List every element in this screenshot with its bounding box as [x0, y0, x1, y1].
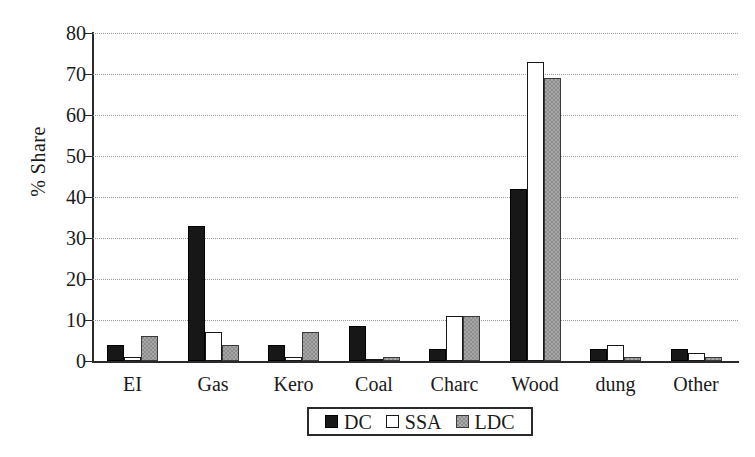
- bar-ldc-other: [705, 357, 722, 361]
- y-tickmark: [85, 320, 93, 321]
- bar-ssa-kero: [285, 357, 302, 361]
- y-tickmark: [85, 33, 93, 34]
- bar-group: [268, 33, 319, 361]
- x-tick-label: Wood: [490, 373, 580, 396]
- y-tick-label: 30: [40, 228, 86, 248]
- y-tickmark: [85, 279, 93, 280]
- legend-item-ldc: LDC: [456, 412, 515, 432]
- bar-group: [349, 33, 400, 361]
- bar-ssa-coal: [366, 359, 383, 361]
- bar-ssa-gas: [205, 332, 222, 361]
- black-square-icon: [325, 415, 338, 428]
- bar-dc-charc: [429, 349, 446, 361]
- x-tick-label: Charc: [410, 373, 500, 396]
- bar-chart: % Share 01020304050607080 EIGasKeroCoalC…: [0, 0, 755, 457]
- bar-ldc-gas: [222, 345, 239, 361]
- bar-ssa-dung: [607, 345, 624, 361]
- bar-group: [671, 33, 722, 361]
- x-tick-label: Gas: [168, 373, 258, 396]
- bar-ldc-wood: [544, 78, 561, 361]
- y-tick-label: 80: [40, 23, 86, 43]
- y-tickmark: [85, 74, 93, 75]
- x-tick-label: dung: [571, 373, 661, 396]
- y-tick-label: 0: [40, 351, 86, 371]
- bar-dc-coal: [349, 326, 366, 361]
- bar-group: [429, 33, 480, 361]
- bar-dc-wood: [510, 189, 527, 361]
- y-tick-label: 10: [40, 310, 86, 330]
- y-tickmark: [85, 197, 93, 198]
- bar-dc-ei: [107, 345, 124, 361]
- y-tick-label: 50: [40, 146, 86, 166]
- white-square-icon: [386, 415, 399, 428]
- y-tickmark: [85, 238, 93, 239]
- bar-dc-dung: [590, 349, 607, 361]
- bar-ldc-dung: [624, 357, 641, 361]
- x-tick-label: Coal: [329, 373, 419, 396]
- bar-group: [188, 33, 239, 361]
- y-tick-label: 40: [40, 187, 86, 207]
- bar-ldc-coal: [383, 357, 400, 361]
- bar-group: [510, 33, 561, 361]
- bar-ssa-wood: [527, 62, 544, 361]
- legend-label: SSA: [405, 412, 442, 432]
- y-tick-label: 20: [40, 269, 86, 289]
- y-tick-label: 70: [40, 64, 86, 84]
- legend-label: DC: [344, 412, 372, 432]
- bar-ldc-kero: [302, 332, 319, 361]
- y-tick-label: 60: [40, 105, 86, 125]
- bar-ssa-other: [688, 353, 705, 361]
- bar-group: [107, 33, 158, 361]
- bar-dc-other: [671, 349, 688, 361]
- x-tick-label: Other: [651, 373, 741, 396]
- y-tickmark: [85, 156, 93, 157]
- bar-group: [590, 33, 641, 361]
- bar-ssa-charc: [446, 316, 463, 361]
- x-axis-line: [92, 361, 739, 363]
- legend-item-dc: DC: [325, 412, 372, 432]
- legend-item-ssa: SSA: [386, 412, 442, 432]
- y-tickmark: [85, 115, 93, 116]
- bar-dc-gas: [188, 226, 205, 361]
- y-tickmark: [85, 361, 93, 362]
- y-axis-tick-labels: 01020304050607080: [36, 0, 86, 457]
- plot-area: EIGasKeroCoalCharcWooddungOther: [93, 33, 738, 361]
- gray-square-icon: [456, 415, 469, 428]
- x-tick-label: EI: [88, 373, 178, 396]
- chart-legend: DCSSALDC: [307, 407, 533, 436]
- bar-dc-kero: [268, 345, 285, 361]
- legend-label: LDC: [475, 412, 515, 432]
- x-tick-label: Kero: [249, 373, 339, 396]
- bar-ldc-ei: [141, 336, 158, 361]
- bar-ldc-charc: [463, 316, 480, 361]
- bar-ssa-ei: [124, 357, 141, 361]
